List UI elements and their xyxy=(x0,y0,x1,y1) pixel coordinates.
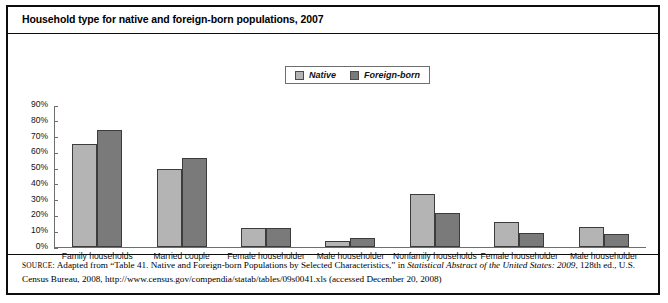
y-tick-label: 40% xyxy=(31,178,48,188)
bar-foreign-born[interactable] xyxy=(519,233,544,247)
bar-foreign-born[interactable] xyxy=(182,158,207,247)
bar-pair xyxy=(325,106,375,247)
bar-foreign-born[interactable] xyxy=(435,213,460,247)
y-tick-label: 0% xyxy=(36,241,48,251)
bar-group: Male householder xyxy=(562,106,646,247)
bar-groups: Family householdsMarried coupleFemale ho… xyxy=(55,106,646,247)
bar-native[interactable] xyxy=(494,222,519,247)
bar-foreign-born[interactable] xyxy=(97,130,122,248)
legend-label: Native xyxy=(309,70,336,80)
legend-swatch-icon xyxy=(295,71,304,80)
bar-pair xyxy=(410,106,460,247)
legend-entry-native: Native xyxy=(295,70,336,80)
bar-native[interactable] xyxy=(157,169,182,247)
y-tick-label: 60% xyxy=(31,146,48,156)
bar-pair xyxy=(494,106,544,247)
y-tick-label: 90% xyxy=(31,99,48,109)
title-divider xyxy=(8,33,658,34)
bar-foreign-born[interactable] xyxy=(604,234,629,247)
legend-swatch-icon xyxy=(350,71,359,80)
plot-area: 0%10%20%30%40%50%60%70%80%90% Family hou… xyxy=(54,106,646,248)
title-bar: Household type for native and foreign-bo… xyxy=(8,7,658,33)
page-title: Household type for native and foreign-bo… xyxy=(22,13,323,25)
y-tick-label: 70% xyxy=(31,131,48,141)
bar-native[interactable] xyxy=(410,194,435,247)
y-tick-label: 80% xyxy=(31,115,48,125)
source-note: SOURCE: Adapted from “Table 41. Native a… xyxy=(22,259,648,285)
bar-group: Male householder xyxy=(308,106,392,247)
y-tick-label: 30% xyxy=(31,194,48,204)
bar-pair xyxy=(579,106,629,247)
y-tick-label: 10% xyxy=(31,225,48,235)
y-tick-mark xyxy=(54,248,58,249)
bar-group: Female householder xyxy=(477,106,561,247)
legend-entry-foreign-born: Foreign-born xyxy=(350,70,420,80)
chart-legend: NativeForeign-born xyxy=(285,66,430,84)
source-prefix: SOURCE xyxy=(22,261,52,270)
source-text-1: : Adapted from “Table 41. Native and For… xyxy=(52,260,407,270)
bar-native[interactable] xyxy=(241,228,266,247)
bar-pair xyxy=(157,106,207,247)
bar-foreign-born[interactable] xyxy=(266,228,291,247)
figure-container: Household type for native and foreign-bo… xyxy=(6,5,660,295)
bar-group: Nonfamily households xyxy=(393,106,477,247)
bar-group: Married couple xyxy=(139,106,223,247)
bar-pair xyxy=(72,106,122,247)
bar-group: Family households xyxy=(55,106,139,247)
bar-pair xyxy=(241,106,291,247)
source-title-italic: Statistical Abstract of the United State… xyxy=(407,260,575,270)
y-tick-label: 50% xyxy=(31,162,48,172)
bar-group: Female householder xyxy=(224,106,308,247)
source-divider xyxy=(8,254,658,255)
y-tick-label: 20% xyxy=(31,209,48,219)
bar-native[interactable] xyxy=(72,144,97,247)
x-axis-line xyxy=(54,247,646,248)
legend-label: Foreign-born xyxy=(364,70,420,80)
bar-foreign-born[interactable] xyxy=(350,238,375,247)
bar-native[interactable] xyxy=(579,227,604,247)
bar-native[interactable] xyxy=(325,241,350,247)
